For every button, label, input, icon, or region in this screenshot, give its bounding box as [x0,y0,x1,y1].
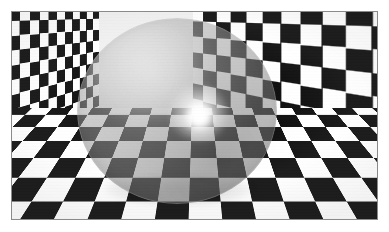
photo-frame [11,11,378,220]
checkerboard-room-scene [12,12,377,219]
checkerboard-floor [12,108,377,219]
image-canvas [0,0,389,232]
